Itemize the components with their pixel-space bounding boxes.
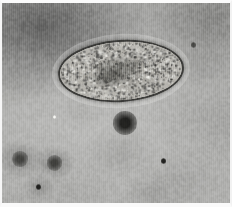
microscopy-field — [2, 3, 230, 203]
micrograph-figure — [0, 0, 232, 207]
scanline-artifact — [2, 3, 230, 203]
